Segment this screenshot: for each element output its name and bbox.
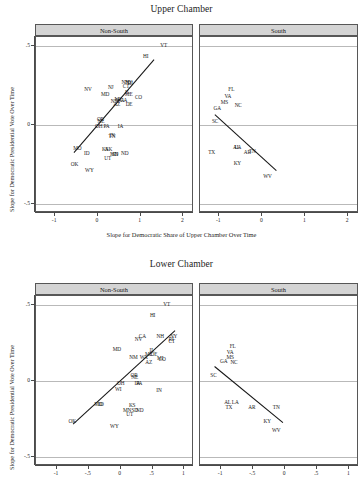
x-axis-tick-label: 1 [182, 470, 185, 476]
data-point-label: FL [228, 87, 234, 93]
data-point-label: MS [221, 100, 228, 106]
y-axis-tick-label: -.5 [14, 453, 30, 459]
data-point-label: NV [84, 87, 91, 93]
x-axis-tick-label: 1 [138, 217, 141, 223]
plot-panel-upper-non-south: VTHINYNHRICTNJNVILMEMDCOMIWACANMAZDEORNE… [35, 36, 193, 212]
x-axis-tick-label: -1 [52, 217, 57, 223]
y-axis-tick [31, 45, 34, 46]
x-axis-tick-label: 0 [260, 217, 263, 223]
x-axis-tick [183, 466, 184, 469]
plot-panel-lower-non-south: VTHINYNHCANVRICTMDILMEDENMWAMICOAZORNEOH… [35, 295, 193, 465]
y-axis-label-lower: Slope for Democratic Presidential Vote O… [8, 345, 15, 470]
x-axis-tick-label: 0 [118, 470, 121, 476]
x-axis-label-upper: Slope for Democratic Share of Upper Cham… [0, 231, 363, 238]
x-axis-tick [54, 213, 55, 216]
figure-title-lower: Lower Chamber [0, 259, 363, 269]
x-axis-tick-label: -.5 [249, 470, 255, 476]
x-axis-line-lower-south [199, 465, 358, 466]
data-point-label: LA [232, 401, 239, 407]
data-point-label: CO [135, 95, 142, 101]
x-axis-tick [284, 466, 285, 469]
x-axis-tick [88, 466, 89, 469]
data-point-label: HI [143, 55, 148, 61]
data-point-label: OK [71, 162, 78, 168]
panel-strip-label: Non-South [100, 286, 128, 293]
data-point-label: NH [156, 334, 163, 340]
data-point-label: OK [69, 419, 76, 425]
data-point-label: NM [129, 355, 137, 361]
regression-fit-line [36, 37, 192, 211]
x-axis-tick-label: .5 [314, 470, 318, 476]
x-axis-tick [347, 213, 348, 216]
x-axis-tick [261, 213, 262, 216]
data-point-label: MD [113, 347, 121, 353]
data-point-label: KY [264, 419, 271, 425]
figure-title-upper: Upper Chamber [0, 4, 363, 14]
x-axis-tick [316, 466, 317, 469]
data-point-label: AZ [113, 102, 120, 108]
x-axis-tick [120, 466, 121, 469]
data-point-label: OH [95, 124, 102, 130]
x-axis-tick-label: 2 [181, 217, 184, 223]
data-point-label: WI [115, 388, 122, 394]
data-point-label: HI [150, 313, 155, 319]
panel-strip-upper-non-south: Non-South [35, 24, 193, 36]
regression-fit-line [200, 37, 357, 211]
x-axis-tick [252, 466, 253, 469]
y-axis-line-upper [34, 36, 35, 212]
data-point-label: MO [73, 146, 81, 152]
data-point-label: TN [273, 405, 280, 411]
data-point-label: TN [109, 134, 116, 140]
plot-panel-upper-south: FLVAMSNCGASCALLATXARTNKYWV [199, 36, 358, 212]
y-axis-tick [31, 203, 34, 204]
x-axis-line-lower-non-south [35, 465, 193, 466]
data-point-label: WV [263, 174, 272, 180]
data-point-label: PA [136, 381, 142, 387]
data-point-label: IN [156, 389, 161, 395]
regression-fit-line [36, 296, 192, 464]
data-point-label: MD [101, 92, 109, 98]
x-axis-tick-label: 0 [96, 217, 99, 223]
y-axis-tick [31, 380, 34, 381]
data-point-label: NC [230, 360, 237, 366]
data-point-label: CT [168, 339, 175, 345]
figure-upper-chamber: Upper Chamber Slope for Democratic Presi… [0, 0, 363, 248]
x-axis-tick-label: -1 [218, 470, 223, 476]
data-point-label: NC [235, 104, 242, 110]
data-point-label: VT [163, 302, 170, 308]
panel-strip-label: South [271, 27, 286, 34]
x-axis-line-upper-south [199, 212, 358, 213]
data-point-label: GA [213, 106, 220, 112]
x-axis-tick [97, 213, 98, 216]
y-axis-tick [31, 456, 34, 457]
data-point-label: WV [272, 428, 281, 434]
y-axis-label-upper: Slope for Democratic Presidential Vote O… [8, 87, 15, 212]
panel-strip-label: Non-South [100, 27, 128, 34]
data-point-label: AZ [145, 360, 152, 366]
data-point-label: IA [118, 125, 123, 131]
x-axis-tick [152, 466, 153, 469]
y-axis-tick-label: -.5 [14, 200, 30, 206]
panel-strip-label: South [271, 286, 286, 293]
y-axis-tick-label: 0 [14, 377, 30, 383]
x-axis-tick [182, 213, 183, 216]
x-axis-tick-label: 2 [346, 217, 349, 223]
data-point-label: SC [210, 373, 216, 379]
y-axis-tick [31, 304, 34, 305]
x-axis-tick [218, 213, 219, 216]
x-axis-line-upper-non-south [35, 212, 193, 213]
data-point-label: ID [98, 402, 103, 408]
y-axis-tick-label: 0 [14, 121, 30, 127]
data-point-label: VT [160, 44, 167, 50]
data-point-label: ND [136, 408, 143, 414]
figure-lower-chamber: Lower Chamber Slope for Democratic Presi… [0, 248, 363, 496]
data-point-label: UT [104, 156, 111, 162]
panel-strip-lower-non-south: Non-South [35, 283, 193, 295]
x-axis-tick-label: -1 [216, 217, 221, 223]
data-point-label: ND [121, 151, 128, 157]
data-point-label: DE [126, 102, 133, 108]
data-point-label: TN [249, 149, 256, 155]
data-point-label: ID [84, 151, 89, 157]
data-point-label: GA [220, 359, 227, 365]
y-axis-tick-label: .5 [14, 301, 30, 307]
